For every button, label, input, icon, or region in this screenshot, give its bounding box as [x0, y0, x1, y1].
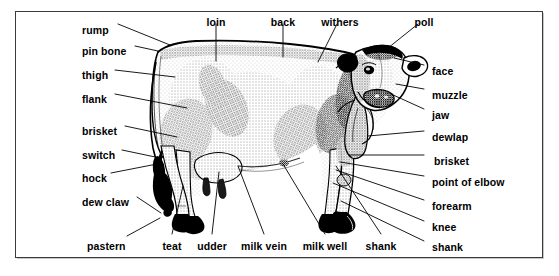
label-brisket: brisket: [434, 156, 469, 167]
label-pin-bone: pin bone: [82, 46, 127, 57]
label-brisket: brisket: [82, 126, 117, 137]
label-dewlap: dewlap: [432, 132, 468, 143]
label-jaw: jaw: [432, 110, 449, 121]
label-back: back: [271, 17, 295, 28]
label-face: face: [432, 66, 453, 77]
label-hock: hock: [82, 173, 107, 184]
label-milk-well: milk well: [303, 241, 348, 252]
label-point-of-elbow: point of elbow: [432, 177, 505, 188]
cow-anatomy-diagram: rumppin bonethighflankbrisketswitchhockd…: [0, 0, 559, 276]
label-withers: withers: [321, 17, 358, 28]
label-teat: teat: [162, 241, 181, 252]
label-shank: shank: [366, 241, 397, 252]
label-knee: knee: [432, 222, 456, 233]
label-poll: poll: [414, 17, 433, 28]
label-switch: switch: [82, 150, 115, 161]
label-udder: udder: [197, 241, 227, 252]
label-flank: flank: [82, 94, 107, 105]
label-muzzle: muzzle: [432, 90, 468, 101]
label-dew-claw: dew claw: [82, 197, 129, 208]
label-loin: loin: [206, 17, 225, 28]
label-pastern: pastern: [87, 241, 126, 252]
label-rump: rump: [82, 25, 109, 36]
label-forearm: forearm: [432, 201, 472, 212]
label-thigh: thigh: [82, 70, 108, 81]
label-shank: shank: [432, 242, 463, 253]
label-milk-vein: milk vein: [241, 241, 287, 252]
